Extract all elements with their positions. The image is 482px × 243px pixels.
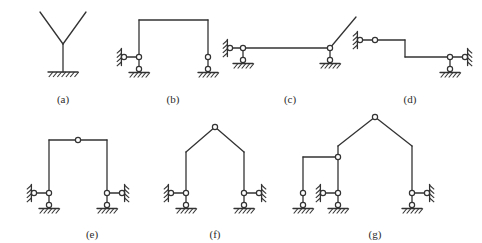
left-wall-horizontal-link-wall-hatch-tick <box>117 62 122 66</box>
left-base-pin-on-link-ground-hatch-tick <box>193 209 197 214</box>
caption-e: (e) <box>72 228 112 240</box>
right-wall-horizontal-link-wall-hatch-tick <box>125 185 130 189</box>
left-wall-horizontal-link-wall-hatch <box>223 40 228 58</box>
left-wall-horizontal-link-wall-pin <box>121 54 126 59</box>
right-base-pin-on-link-ground-hatch-tick <box>211 73 215 78</box>
right-wall-horizontal-link <box>247 185 267 203</box>
right-base-pin-on-link-ground-hatch-tick <box>419 209 423 214</box>
caption-b: (b) <box>153 93 193 105</box>
left-base-pin-on-link-ground-hatch-tick <box>138 73 142 78</box>
right-base-pin-on-link-ground-hatch <box>402 209 423 214</box>
left-beam-pin-on-link-ground-hatch-tick <box>242 64 246 69</box>
right-wall-horizontal-link-wall-hatch <box>262 185 267 203</box>
right-base-pin-on-link <box>234 190 255 213</box>
middle-wall-horizontal-link-wall-hatch <box>316 185 321 203</box>
left-beam-pin-on-link <box>233 45 254 68</box>
side-bay-base-pin-on-link-ground-hatch-tick <box>294 209 298 214</box>
right-base-pin-on-link-ground-hatch-tick <box>247 209 251 214</box>
left-wall-pin-wall-hatch-tick <box>353 41 358 45</box>
right-base-pin-on-link-upper-pin <box>205 54 210 59</box>
left-base-pin-on-link-ground-hatch <box>129 73 150 78</box>
right-beam-pin-on-link <box>320 45 341 68</box>
right-wall-horizontal-link-wall-hatch-tick <box>468 62 473 66</box>
left-wall-horizontal-link-wall-hatch-tick <box>223 49 228 53</box>
right-base-pin-on-link-ground-hatch-tick <box>106 209 110 214</box>
diagram-d <box>353 32 472 78</box>
right-base-pin-on-link-ground-hatch-tick <box>102 209 106 214</box>
fixed-support-base-hatch <box>48 72 79 77</box>
right-beam-pin-on-link-lower-pin <box>327 57 332 62</box>
right-wall-horizontal-link-wall-hatch-tick <box>468 54 473 58</box>
side-bay-base-pin-on-link-lower-pin <box>300 202 305 207</box>
right-beam-pin-on-link-ground-hatch-tick <box>321 64 325 69</box>
left-base-pin-on-link <box>176 190 197 213</box>
left-beam-pin-on-link-ground-hatch-tick <box>234 64 238 69</box>
left-base-pin-on-link-upper-pin <box>136 54 141 59</box>
left-wall-pin <box>353 32 363 50</box>
right-base-pin-on-link-ground-hatch-tick <box>445 73 449 78</box>
left-beam-pin-on-link-ground-hatch <box>233 64 254 69</box>
fixed-support-base-hatch-tick <box>49 72 53 77</box>
left-wall-horizontal-link-wall-hatch-tick <box>27 190 32 194</box>
left-base-pin-on-link-ground-hatch-tick <box>185 209 189 214</box>
member-left-branch <box>40 12 63 44</box>
left-wall-pin-wall-hatch-tick <box>353 32 358 36</box>
left-wall-horizontal-link-wall-hatch-tick <box>27 194 32 198</box>
right-base-pin-on-link-upper-pin <box>241 190 246 195</box>
middle-wall-horizontal-link-wall-hatch-tick <box>316 190 321 194</box>
right-base-pin-on-link-ground-hatch-tick <box>199 73 203 78</box>
left-base-pin-on-link-ground-hatch-tick <box>52 209 56 214</box>
member-right-rafter <box>375 117 412 146</box>
left-base-pin-on-link-lower-pin <box>136 66 141 71</box>
left-base-pin-on-link-ground-hatch-tick <box>40 209 44 214</box>
right-base-pin-on-link-lower-pin <box>104 202 109 207</box>
left-base-pin-on-link-ground-hatch-tick <box>134 73 138 78</box>
hinge-internal-hinge-left-segment <box>372 37 377 42</box>
right-base-pin-on-link-ground-hatch-tick <box>203 73 207 78</box>
side-bay-base-pin-on-link-ground-hatch-tick <box>310 209 314 214</box>
fixed-support-base-hatch-tick <box>57 72 61 77</box>
right-base-pin-on-link-ground-hatch-tick <box>235 209 239 214</box>
right-base-pin-on-link-ground-hatch-tick <box>415 209 419 214</box>
middle-base-pin-on-link-ground-hatch-tick <box>337 209 341 214</box>
right-base-pin-on-link <box>97 190 118 213</box>
right-base-pin-on-link-ground-hatch-tick <box>453 73 457 78</box>
left-beam-pin-on-link-ground-hatch-tick <box>246 64 250 69</box>
fixed-support-base <box>48 72 79 77</box>
member-inclined-member <box>330 17 356 48</box>
left-base-pin-on-link-lower-pin <box>46 202 51 207</box>
diagram-a <box>40 12 86 77</box>
right-wall-horizontal-link-wall-pin <box>256 190 261 195</box>
right-wall-horizontal-link-wall-hatch-tick <box>468 49 473 53</box>
right-base-pin-on-link <box>402 190 423 213</box>
middle-base-pin-on-link-ground-hatch-tick <box>345 209 349 214</box>
diagram-g <box>293 114 434 213</box>
right-wall-horizontal-link-wall-hatch <box>430 185 435 203</box>
middle-base-pin-on-link-ground-hatch-tick <box>333 209 337 214</box>
right-base-pin-on-link <box>198 54 219 77</box>
right-wall-horizontal-link-wall-hatch-tick <box>430 185 435 189</box>
fixed-support-base-hatch-tick <box>74 72 78 77</box>
right-wall-horizontal-link-wall-hatch-tick <box>262 185 267 189</box>
hinge-apex-hinge <box>372 114 377 119</box>
left-wall-horizontal-link <box>117 49 137 67</box>
caption-a: (a) <box>43 93 83 105</box>
left-wall-horizontal-link-wall-hatch-tick <box>164 198 169 202</box>
right-wall-horizontal-link-wall-hatch-tick <box>262 194 267 198</box>
right-wall-horizontal-link-wall-pin <box>424 190 429 195</box>
left-wall-pin-wall-hatch-tick <box>353 37 358 41</box>
left-base-pin-on-link <box>39 190 60 213</box>
caption-f: (f) <box>195 228 235 240</box>
right-wall-horizontal-link <box>453 49 473 67</box>
left-base-pin-on-link-ground-hatch-tick <box>56 209 60 214</box>
right-base-pin-on-link-ground-hatch <box>198 73 219 78</box>
left-base-pin-on-link-lower-pin <box>183 202 188 207</box>
hinge-side-bay-connection-hinge <box>335 154 340 159</box>
left-wall-horizontal-link-wall-hatch-tick <box>164 194 169 198</box>
left-wall-pin-wall-hatch-tick <box>353 45 358 49</box>
left-base-pin-on-link-upper-pin <box>46 190 51 195</box>
right-wall-horizontal-link <box>415 185 435 203</box>
side-bay-base-pin-on-link <box>293 190 314 213</box>
diagram-c <box>223 17 356 69</box>
right-wall-horizontal-link-wall-hatch-tick <box>262 198 267 202</box>
